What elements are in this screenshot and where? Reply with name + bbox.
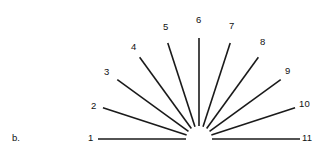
spoke-label-10: 10 bbox=[299, 99, 310, 109]
spoke-label-7: 7 bbox=[229, 21, 234, 31]
spoke-label-6: 6 bbox=[196, 15, 201, 25]
spoke-label-9: 9 bbox=[285, 66, 290, 76]
spoke-label-1: 1 bbox=[88, 133, 93, 143]
spoke-label-2: 2 bbox=[91, 101, 96, 111]
spoke-label-11: 11 bbox=[302, 133, 312, 143]
spoke-label-8: 8 bbox=[260, 37, 265, 47]
panel-caption: b. bbox=[12, 132, 20, 143]
fan-diagram-figure: 1234567891011 b. bbox=[0, 0, 332, 152]
spoke-label-3: 3 bbox=[104, 67, 109, 77]
spoke-label-4: 4 bbox=[131, 42, 136, 52]
spoke-label-5: 5 bbox=[163, 22, 168, 32]
